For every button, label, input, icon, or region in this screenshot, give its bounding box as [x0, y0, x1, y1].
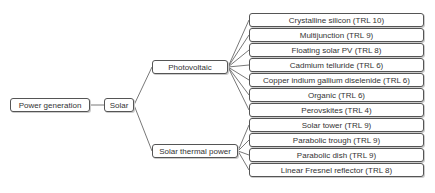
technology-tree-diagram: Power generation Solar Photovoltaic Sola…	[0, 0, 435, 193]
node-solar: Solar	[104, 98, 134, 112]
leaf-multijunction: Multijunction (TRL 9)	[249, 28, 424, 42]
leaf-parabolic-dish: Parabolic dish (TRL 9)	[249, 148, 424, 162]
leaf-organic: Organic (TRL 6)	[249, 88, 424, 102]
leaf-floating-solar-pv: Floating solar PV (TRL 8)	[249, 43, 424, 57]
leaf-perovskites: Perovskites (TRL 4)	[249, 103, 424, 117]
node-power-generation: Power generation	[10, 98, 90, 112]
leaf-crystalline-silicon: Crystalline silicon (TRL 10)	[249, 13, 424, 27]
node-photovoltaic: Photovoltaic	[152, 60, 228, 74]
leaf-linear-fresnel-reflector: Linear Fresnel reflector (TRL 8)	[249, 163, 424, 177]
leaf-solar-tower: Solar tower (TRL 9)	[249, 118, 424, 132]
leaf-parabolic-trough: Parabolic trough (TRL 9)	[249, 133, 424, 147]
leaf-cigs: Copper indium gallium diselenide (TRL 6)	[249, 73, 424, 87]
leaf-cadmium-telluride: Cadmium telluride (TRL 6)	[249, 58, 424, 72]
node-solar-thermal-power: Solar thermal power	[152, 144, 238, 158]
